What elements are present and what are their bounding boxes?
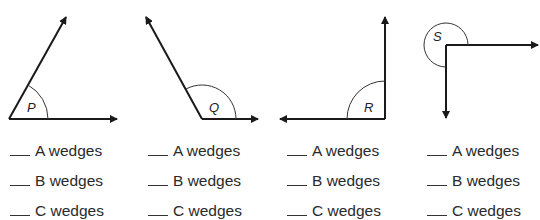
angle-q: Q [146, 17, 258, 119]
answer-blank[interactable] [10, 141, 30, 156]
answer-blank[interactable] [10, 201, 30, 216]
answer-column-p: A wedges B wedges C wedges [10, 140, 125, 220]
ray-arrow-icon [9, 17, 66, 119]
answer-text: B wedges [452, 172, 520, 189]
angle-p: P [9, 17, 117, 119]
answer-text: C wedges [452, 202, 521, 219]
answer-text: B wedges [173, 172, 241, 189]
answer-column-s: A wedges B wedges C wedges [427, 140, 540, 220]
answer-row: C wedges [427, 200, 540, 220]
answer-text: B wedges [312, 172, 380, 189]
answer-row: B wedges [148, 170, 263, 200]
angle-label-r: R [364, 100, 373, 115]
answer-text: C wedges [312, 202, 381, 219]
angle-label-p: P [27, 100, 36, 115]
answer-row: C wedges [148, 200, 263, 220]
answer-blank[interactable] [287, 171, 307, 186]
answer-row: C wedges [287, 200, 402, 220]
answer-row: A wedges [10, 140, 125, 170]
answer-blank[interactable] [287, 141, 307, 156]
answer-row: B wedges [427, 170, 540, 200]
answer-blank[interactable] [427, 141, 447, 156]
answer-text: C wedges [35, 202, 104, 219]
answer-blank[interactable] [287, 201, 307, 216]
answer-column-r: A wedges B wedges C wedges [287, 140, 402, 220]
angle-diagrams: P Q R S [0, 0, 540, 135]
answer-text: C wedges [173, 202, 242, 219]
answer-row: B wedges [10, 170, 125, 200]
angle-r: R [280, 17, 385, 119]
answer-text: A wedges [173, 142, 240, 159]
answer-row: B wedges [287, 170, 402, 200]
answer-blank[interactable] [427, 201, 447, 216]
answer-row: A wedges [427, 140, 540, 170]
angle-s: S [424, 23, 538, 118]
answer-row: A wedges [287, 140, 402, 170]
answer-text: B wedges [35, 172, 103, 189]
answer-blank[interactable] [148, 201, 168, 216]
answer-blank[interactable] [10, 171, 30, 186]
answer-blank[interactable] [427, 171, 447, 186]
answer-column-q: A wedges B wedges C wedges [148, 140, 263, 220]
answer-row: A wedges [148, 140, 263, 170]
answer-text: A wedges [35, 142, 102, 159]
answer-blank[interactable] [148, 141, 168, 156]
answer-text: A wedges [312, 142, 379, 159]
angle-label-q: Q [209, 100, 219, 115]
answer-text: A wedges [452, 142, 519, 159]
answer-blank[interactable] [148, 171, 168, 186]
angle-label-s: S [433, 29, 442, 44]
ray-arrow-icon [146, 17, 202, 119]
answer-row: C wedges [10, 200, 125, 220]
